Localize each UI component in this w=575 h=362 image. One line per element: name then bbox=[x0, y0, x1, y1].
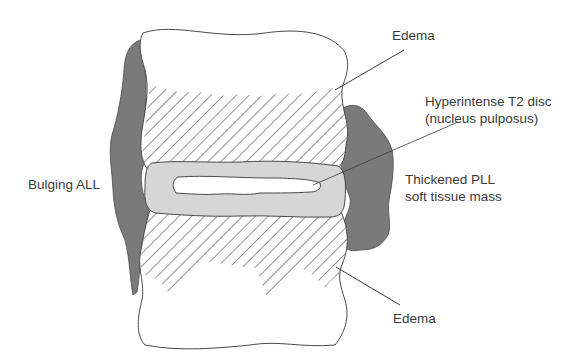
label-hyperintense-line2: (nucleus pulposus) bbox=[425, 110, 552, 127]
leader-line-edema-bottom bbox=[336, 267, 400, 305]
label-hyperintense-line1: Hyperintense T2 disc bbox=[425, 93, 552, 110]
label-thickened-pll: Thickened PLL soft tissue mass bbox=[405, 171, 502, 205]
lower-vertebral-body bbox=[135, 200, 355, 349]
label-bulging-all: Bulging ALL bbox=[28, 176, 100, 193]
posterior-longitudinal-ligament-mass bbox=[342, 105, 394, 250]
nucleus-pulposus bbox=[173, 176, 320, 194]
label-thickened-line1: Thickened PLL bbox=[405, 171, 502, 188]
label-edema-top: Edema bbox=[392, 27, 435, 44]
label-hyperintense-t2-disc: Hyperintense T2 disc (nucleus pulposus) bbox=[425, 93, 552, 127]
upper-vertebral-body bbox=[140, 29, 352, 175]
label-edema-bottom: Edema bbox=[393, 310, 436, 327]
label-thickened-line2: soft tissue mass bbox=[405, 188, 502, 205]
